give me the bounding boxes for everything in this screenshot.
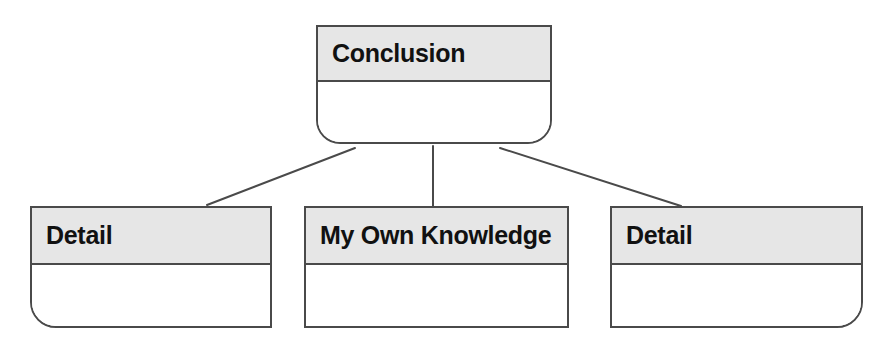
node-conclusion[interactable]: Conclusion (316, 25, 552, 144)
node-conclusion-title: Conclusion (332, 39, 465, 68)
connector-line-left (207, 148, 355, 205)
node-my-own-knowledge-body[interactable] (306, 265, 567, 326)
node-detail-left-body[interactable] (32, 265, 270, 326)
node-detail-right-header: Detail (612, 208, 861, 265)
connector-line-right (500, 148, 681, 206)
diagram-canvas: Conclusion Detail My Own Knowledge Detai… (0, 0, 886, 357)
node-my-own-knowledge-header: My Own Knowledge (306, 208, 567, 265)
node-detail-left-title: Detail (46, 221, 112, 250)
node-detail-left-header: Detail (32, 208, 270, 265)
node-my-own-knowledge[interactable]: My Own Knowledge (304, 206, 569, 328)
node-detail-right-title: Detail (626, 221, 692, 250)
node-detail-right-body[interactable] (612, 265, 861, 326)
node-detail-left[interactable]: Detail (30, 206, 272, 328)
node-conclusion-header: Conclusion (318, 27, 550, 82)
node-conclusion-body[interactable] (318, 82, 550, 142)
node-detail-right[interactable]: Detail (610, 206, 863, 328)
node-my-own-knowledge-title: My Own Knowledge (320, 221, 551, 250)
